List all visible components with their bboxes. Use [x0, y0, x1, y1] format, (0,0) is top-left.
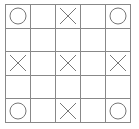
board-cell-r0-c2[interactable]: [56, 5, 81, 29]
board-cell-r3-c4[interactable]: [106, 76, 131, 100]
board-cell-r1-c1[interactable]: [31, 29, 56, 53]
board-cell-r2-c1[interactable]: [31, 52, 56, 76]
o-mark-icon: [9, 7, 27, 25]
board-cell-r3-c2[interactable]: [56, 76, 81, 100]
board-cell-r1-c4[interactable]: [106, 29, 131, 53]
x-mark-icon: [109, 54, 127, 72]
board-cell-r4-c3[interactable]: [81, 99, 106, 123]
board-cell-r0-c3[interactable]: [81, 5, 106, 29]
board-cell-r1-c0[interactable]: [6, 29, 31, 53]
x-mark-icon: [59, 54, 77, 72]
x-mark-icon: [9, 54, 27, 72]
x-mark-icon: [59, 7, 77, 25]
board-cell-r0-c1[interactable]: [31, 5, 56, 29]
board-cell-r4-c2[interactable]: [56, 99, 81, 123]
board-cell-r0-c0[interactable]: [6, 5, 31, 29]
board-cell-r2-c0[interactable]: [6, 52, 31, 76]
board-cell-r4-c4[interactable]: [106, 99, 131, 123]
board-cell-r2-c4[interactable]: [106, 52, 131, 76]
o-mark-icon: [109, 7, 127, 25]
board-cell-r1-c3[interactable]: [81, 29, 106, 53]
x-mark-icon: [59, 102, 77, 120]
board-cell-r3-c0[interactable]: [6, 76, 31, 100]
board-cell-r1-c2[interactable]: [56, 29, 81, 53]
board-cell-r4-c1[interactable]: [31, 99, 56, 123]
board-cell-r3-c3[interactable]: [81, 76, 106, 100]
board-cell-r3-c1[interactable]: [31, 76, 56, 100]
board-cell-r0-c4[interactable]: [106, 5, 131, 29]
board-cell-r4-c0[interactable]: [6, 99, 31, 123]
o-mark-icon: [9, 102, 27, 120]
game-board: [5, 4, 131, 123]
board-cell-r2-c2[interactable]: [56, 52, 81, 76]
o-mark-icon: [109, 102, 127, 120]
board-cell-r2-c3[interactable]: [81, 52, 106, 76]
